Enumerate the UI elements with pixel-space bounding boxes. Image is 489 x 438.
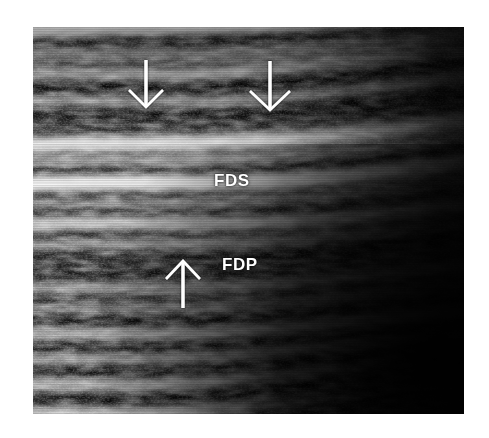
arrow-down-right-icon xyxy=(250,61,290,110)
arrow-down-left-icon xyxy=(129,60,163,107)
ultrasound-figure: FDS FDP xyxy=(0,0,489,438)
label-fds: FDS xyxy=(214,172,250,189)
label-fdp: FDP xyxy=(222,256,258,273)
ultrasound-scan-panel: FDS FDP xyxy=(33,27,464,414)
arrow-markers xyxy=(33,27,464,414)
annotation-overlay: FDS FDP xyxy=(33,27,464,414)
arrow-up-center-icon xyxy=(166,261,200,308)
